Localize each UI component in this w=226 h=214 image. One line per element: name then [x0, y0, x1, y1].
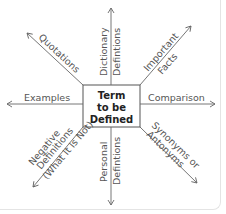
label-dictionary-1: Dictionary	[98, 27, 109, 76]
center-line-1: Term	[98, 90, 126, 101]
center-line-3: Defined	[90, 114, 134, 125]
center-line-2: to be	[97, 102, 126, 113]
arrow-upper-right	[140, 26, 191, 85]
label-personal: Personal	[98, 142, 109, 182]
concept-map: Term to be Defined Quotations Dictionary…	[0, 0, 226, 214]
label-examples: Examples	[24, 92, 70, 103]
label-dictionary-2: Defintions	[111, 28, 122, 76]
label-personal-definitions: Defintions	[111, 137, 122, 185]
label-quotations: Quotations	[37, 31, 83, 75]
label-comparison: Comparison	[148, 92, 205, 103]
